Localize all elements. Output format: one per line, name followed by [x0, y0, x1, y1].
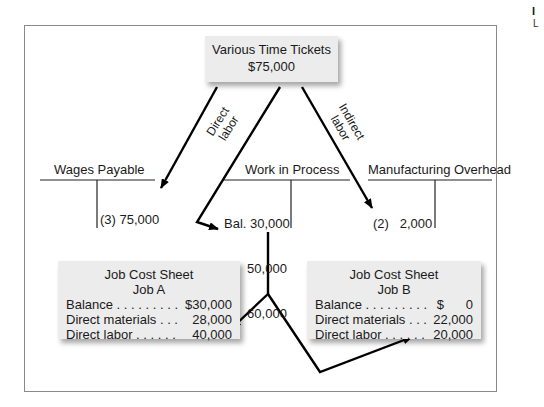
time-tickets-box: Various Time Tickets $75,000 — [205, 36, 338, 82]
jcs-row: Direct materials . . .28,000 — [66, 312, 232, 327]
jcs-title: Job Cost Sheet — [315, 267, 473, 282]
jcs-value: $ 0 — [437, 297, 473, 312]
jcs-title: Job Cost Sheet — [66, 267, 232, 282]
wip-title: Work in Process — [245, 162, 339, 177]
jcs-label: Balance . . . . . . . . . — [315, 297, 427, 312]
jcs-row: Direct materials . . .22,000 — [315, 312, 473, 327]
wages-payable-credit: (3) 75,000 — [100, 182, 159, 242]
wages-payable-entry: (3) 75,000 — [100, 212, 159, 227]
jcs-row: Direct labor . . . . . .40,000 — [66, 327, 232, 342]
wip-entry: Bal. 30,000 — [224, 216, 290, 231]
jcs-row: Balance . . . . . . . . .$30,000 — [66, 297, 232, 312]
time-tickets-title: Various Time Tickets — [205, 41, 338, 58]
moh-title: Manufacturing Overhead — [368, 162, 511, 177]
jcs-row: Direct labor . . . . . .20,000 — [315, 327, 473, 342]
jcs-value: 28,000 — [192, 312, 232, 327]
clipped-edge-text: I — [532, 5, 535, 17]
wages-payable-title: Wages Payable — [54, 162, 145, 177]
jcs-label: Direct materials . . . — [315, 312, 427, 327]
jcs-value: 40,000 — [192, 327, 232, 342]
jcs-value: 22,000 — [433, 312, 473, 327]
jcs-label: Direct materials . . . — [66, 312, 178, 327]
jcs-label: Direct labor . . . . . . — [315, 327, 425, 342]
moh-entry: (2) 2,000 — [373, 216, 432, 231]
time-tickets-amount: $75,000 — [205, 58, 338, 75]
jcs-job: Job B — [315, 282, 473, 297]
jcs-value: $30,000 — [185, 297, 232, 312]
clipped-edge-text-2: L — [533, 18, 539, 29]
jcs-label: Balance . . . . . . . . . — [66, 297, 178, 312]
jcs-label: Direct labor . . . . . . — [66, 327, 176, 342]
jcs-value: 20,000 — [433, 327, 473, 342]
job-cost-sheet-a: Job Cost Sheet Job A Balance . . . . . .… — [58, 261, 240, 339]
job-cost-sheet-b: Job Cost Sheet Job B Balance . . . . . .… — [307, 261, 481, 339]
jcs-row: Balance . . . . . . . . .$ 0 — [315, 297, 473, 312]
jcs-job: Job A — [66, 282, 232, 297]
